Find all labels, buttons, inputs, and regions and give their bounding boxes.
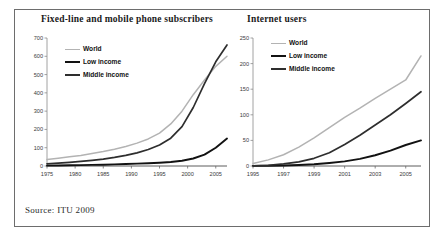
svg-text:300: 300 (34, 108, 43, 114)
legend-left: World Low income Middle income (65, 46, 129, 85)
svg-text:0: 0 (246, 163, 249, 169)
svg-text:100: 100 (34, 145, 43, 151)
svg-text:1985: 1985 (97, 171, 109, 177)
legend-swatch-low-income-icon (65, 61, 80, 63)
legend-item-world: World (65, 46, 129, 53)
legend-item-middle-income: Middle income (65, 72, 129, 79)
svg-text:700: 700 (34, 35, 43, 41)
legend-swatch-middle-income-icon (271, 68, 286, 70)
legend-item-low-income: Low income (65, 59, 129, 66)
svg-text:1997: 1997 (277, 171, 289, 177)
legend-right: World Low income Middle income (271, 40, 335, 79)
svg-text:1990: 1990 (125, 171, 137, 177)
legend-label-low-income: Low income (83, 59, 121, 66)
legend-label-world: World (289, 40, 308, 47)
svg-text:600: 600 (34, 53, 43, 59)
source-note: Source: ITU 2009 (25, 205, 95, 215)
svg-text:2000: 2000 (181, 171, 193, 177)
chart-panel-fixed-line-mobile: Fixed-line and mobile phone subscribers … (21, 10, 233, 186)
svg-text:1980: 1980 (69, 171, 81, 177)
svg-text:200: 200 (34, 126, 43, 132)
chart-panel-internet-users: Internet users 0501001502002501995199719… (229, 10, 429, 186)
svg-text:1995: 1995 (247, 171, 259, 177)
chart-title-right: Internet users (229, 14, 446, 24)
legend-item-low-income: Low income (271, 53, 335, 60)
svg-text:1999: 1999 (308, 171, 320, 177)
svg-text:200: 200 (240, 61, 249, 67)
svg-text:500: 500 (34, 72, 43, 78)
svg-text:100: 100 (240, 112, 249, 118)
svg-text:400: 400 (34, 90, 43, 96)
figure-frame: Fixed-line and mobile phone subscribers … (14, 9, 430, 227)
legend-label-middle-income: Middle income (289, 66, 335, 73)
legend-item-middle-income: Middle income (271, 66, 335, 73)
svg-text:2005: 2005 (210, 171, 222, 177)
legend-item-world: World (271, 40, 335, 47)
svg-text:0: 0 (40, 163, 43, 169)
legend-swatch-low-income-icon (271, 55, 286, 57)
svg-text:2001: 2001 (338, 171, 350, 177)
svg-text:2005: 2005 (400, 171, 412, 177)
svg-text:1995: 1995 (153, 171, 165, 177)
legend-swatch-middle-income-icon (65, 74, 80, 76)
svg-text:250: 250 (240, 35, 249, 41)
svg-text:50: 50 (243, 137, 249, 143)
legend-label-low-income: Low income (289, 53, 327, 60)
svg-text:1975: 1975 (41, 171, 53, 177)
svg-text:150: 150 (240, 86, 249, 92)
svg-text:2003: 2003 (369, 171, 381, 177)
legend-label-world: World (83, 46, 102, 53)
chart-title-left: Fixed-line and mobile phone subscribers (21, 14, 233, 24)
legend-swatch-world-icon (65, 49, 80, 50)
legend-label-middle-income: Middle income (83, 72, 129, 79)
legend-swatch-world-icon (271, 43, 286, 44)
charts-container: Fixed-line and mobile phone subscribers … (15, 10, 429, 186)
